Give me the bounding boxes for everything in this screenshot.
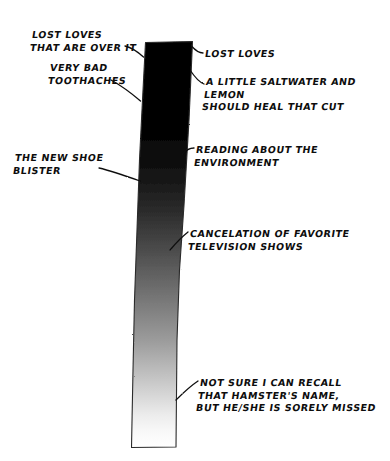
- leader-line-saltwater-lemon: [190, 70, 204, 84]
- label-cancelation-of-favorite-television-shows: Cancelation of favorite television shows: [187, 228, 350, 253]
- label-lost-loves: Lost loves: [204, 48, 276, 61]
- leader-line-lost-loves: [192, 46, 204, 53]
- label-new-shoe-blister: The new shoe blister: [12, 152, 104, 177]
- label-reading-about-the-environment: Reading about the environment: [193, 144, 390, 169]
- label-saltwater-and-lemon: A little saltwater and lemon should heal…: [201, 76, 390, 114]
- gradient-bar: [132, 42, 193, 448]
- label-lost-loves-over-it: Lost loves that are over it: [29, 29, 139, 54]
- label-very-bad-toothaches: Very bad toothaches: [47, 62, 129, 87]
- label-hamster-name: Not sure I can recall that hamster's nam…: [195, 377, 381, 415]
- diagram-canvas: Lost loves that are over it Very bad too…: [0, 0, 390, 461]
- leader-line-new-shoe-blister: [99, 168, 140, 181]
- leader-line-hamster: [176, 381, 198, 400]
